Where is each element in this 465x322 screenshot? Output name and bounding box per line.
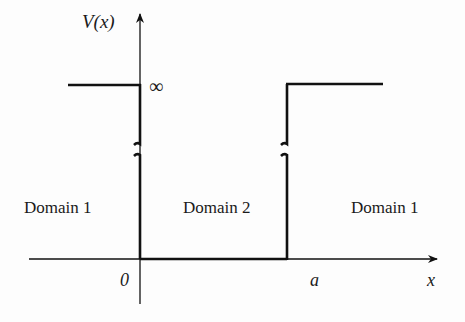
right-wall-lower (281, 154, 287, 260)
left-wall-upper (134, 84, 140, 145)
left-wall-lower (134, 154, 140, 259)
origin-label: 0 (120, 271, 129, 289)
diagram-graphics (0, 0, 465, 322)
x-axis-label: x (427, 271, 435, 289)
region-middle-label: Domain 2 (183, 199, 251, 216)
wall-position-label: a (310, 271, 319, 289)
potential-well-diagram: V(x) ∞ Domain 1 Domain 2 Domain 1 0 a x (0, 0, 465, 322)
infinity-label: ∞ (149, 76, 163, 96)
right-wall-upper (281, 84, 287, 145)
y-axis-label: V(x) (82, 12, 115, 31)
region-right-label: Domain 1 (351, 199, 419, 216)
region-left-label: Domain 1 (24, 199, 92, 216)
